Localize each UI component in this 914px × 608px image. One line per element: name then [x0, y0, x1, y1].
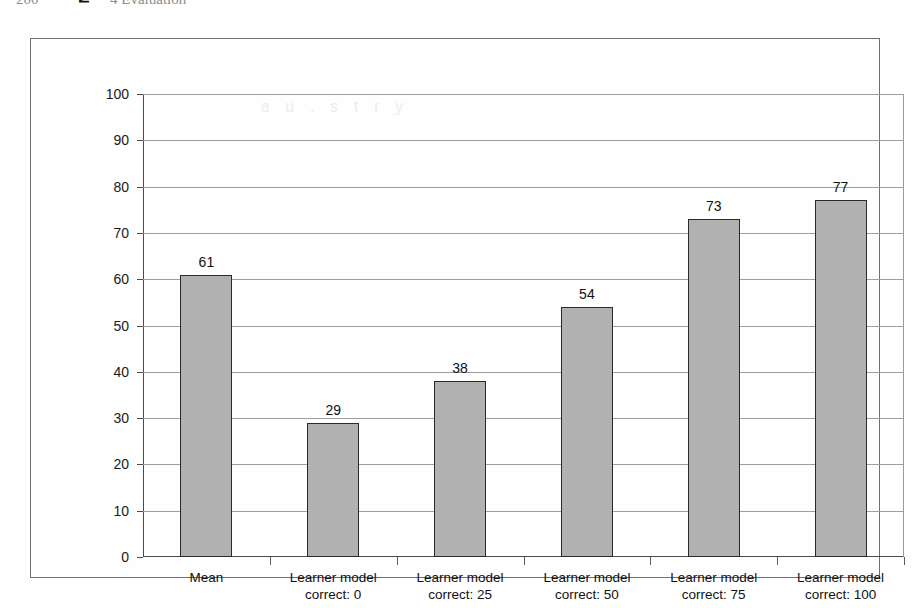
y-tick-mark	[137, 372, 143, 373]
y-tick-mark	[137, 279, 143, 280]
y-tick-mark	[137, 511, 143, 512]
bar	[307, 423, 359, 557]
y-axis-title: Mean agreement (5 pt % scale)	[67, 0, 101, 128]
gridline	[143, 140, 904, 141]
bar-value-label: 29	[293, 402, 373, 418]
x-category-line: Learner model	[650, 569, 777, 586]
y-tick-mark	[137, 94, 143, 95]
bar-value-label: 38	[420, 360, 500, 376]
y-tick-mark	[137, 233, 143, 234]
gridline	[143, 418, 904, 419]
x-category-line: correct: 75	[650, 586, 777, 603]
y-tick-label: 70	[89, 225, 129, 241]
y-tick-label: 40	[89, 364, 129, 380]
bar-value-label: 54	[547, 286, 627, 302]
bar	[180, 275, 232, 557]
y-tick-label: 90	[89, 132, 129, 148]
x-category-label: Learner modelcorrect: 75	[650, 569, 777, 603]
x-tick-mark	[904, 557, 905, 565]
y-tick-label: 80	[89, 179, 129, 195]
gridline	[143, 464, 904, 465]
x-category-label: Mean	[143, 569, 270, 586]
bar-value-label: 61	[166, 254, 246, 270]
gridline	[143, 279, 904, 280]
x-tick-mark	[650, 557, 651, 565]
bar-value-label: 77	[801, 179, 881, 195]
gridline	[143, 187, 904, 188]
y-tick-label: 10	[89, 503, 129, 519]
y-tick-label: 0	[89, 549, 129, 565]
y-tick-label: 30	[89, 410, 129, 426]
x-category-line: correct: 50	[524, 586, 651, 603]
y-tick-label: 100	[89, 86, 129, 102]
x-tick-mark	[397, 557, 398, 565]
x-category-label: Learner modelcorrect: 0	[270, 569, 397, 603]
x-tick-mark	[524, 557, 525, 565]
chart-figure-frame: a u . s t r y Mean agreement (5 pt % sca…	[30, 38, 880, 578]
x-category-line: Mean	[143, 569, 270, 586]
y-tick-label: 20	[89, 456, 129, 472]
y-tick-mark	[137, 187, 143, 188]
gridline	[143, 94, 904, 95]
page-number: 200	[16, 0, 39, 8]
gridline	[143, 372, 904, 373]
x-category-line: correct: 0	[270, 586, 397, 603]
gridline	[143, 511, 904, 512]
bar	[815, 200, 867, 557]
x-tick-mark	[270, 557, 271, 565]
page-running-header: 200 4 Evaluation	[0, 0, 914, 12]
x-category-line: correct: 25	[397, 586, 524, 603]
gridline	[143, 233, 904, 234]
x-category-line: Learner model	[397, 569, 524, 586]
x-category-line: Learner model	[524, 569, 651, 586]
chapter-title: 4 Evaluation	[110, 0, 186, 8]
x-category-line: Learner model	[777, 569, 904, 586]
y-tick-label: 60	[89, 271, 129, 287]
x-category-label: Learner modelcorrect: 25	[397, 569, 524, 603]
y-tick-mark	[137, 418, 143, 419]
gridline	[143, 326, 904, 327]
bar-value-label: 73	[674, 198, 754, 214]
x-category-label: Learner modelcorrect: 50	[524, 569, 651, 603]
y-tick-mark	[137, 326, 143, 327]
x-tick-mark	[777, 557, 778, 565]
bar	[561, 307, 613, 557]
x-category-line: Learner model	[270, 569, 397, 586]
bar	[434, 381, 486, 557]
y-tick-label: 50	[89, 318, 129, 334]
y-tick-mark	[137, 464, 143, 465]
x-category-line: correct: 100	[777, 586, 904, 603]
y-tick-mark	[137, 140, 143, 141]
y-tick-mark	[137, 557, 143, 558]
x-category-label: Learner modelcorrect: 100	[777, 569, 904, 603]
bar	[688, 219, 740, 557]
